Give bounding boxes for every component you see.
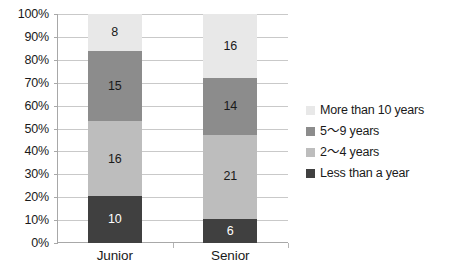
y-axis-line — [57, 14, 58, 243]
bar-segment[interactable]: 14 — [203, 78, 257, 134]
legend-swatch-icon — [306, 148, 315, 157]
bar-segment[interactable]: 21 — [203, 135, 257, 219]
bar-column[interactable]: 8151610 — [88, 14, 142, 243]
y-axis-tick-label: 10% — [25, 214, 49, 227]
y-axis-tick-label: 20% — [25, 191, 49, 204]
legend-item-label: More than 10 years — [320, 104, 424, 117]
y-axis-tick-label: 70% — [25, 76, 49, 89]
bar-segment[interactable]: 16 — [203, 14, 257, 78]
bar-segment-label: 16 — [108, 153, 122, 166]
legend: More than 10 years5～9 years2～4 yearsLess… — [306, 100, 446, 184]
legend-item[interactable]: More than 10 years — [306, 100, 446, 121]
y-axis-tick-label: 50% — [25, 122, 49, 135]
x-axis-category-label: Senior — [180, 249, 280, 263]
bar-segment[interactable]: 6 — [203, 219, 257, 243]
legend-item[interactable]: 5～9 years — [306, 121, 446, 142]
bar-segment[interactable]: 15 — [88, 51, 142, 121]
y-axis-tick-label: 40% — [25, 145, 49, 158]
bar-segment-label: 6 — [227, 225, 234, 238]
legend-swatch-icon — [306, 169, 315, 178]
bar-segment[interactable]: 10 — [88, 196, 142, 243]
legend-item[interactable]: Less than a year — [306, 163, 446, 184]
stacked-bar-chart: 100%90%80%70%60%50%40%30%20%10%0% 815161… — [0, 0, 452, 273]
legend-item-label: 2～4 years — [320, 146, 379, 159]
x-axis-tick-mark — [288, 243, 289, 248]
x-axis-category-label: Junior — [65, 249, 165, 263]
bar-segment[interactable]: 8 — [88, 14, 142, 51]
legend-item[interactable]: 2～4 years — [306, 142, 446, 163]
legend-swatch-icon — [306, 106, 315, 115]
y-axis-tick-label: 60% — [25, 99, 49, 112]
bar-segment-label: 15 — [108, 80, 122, 93]
y-axis: 100%90%80%70%60%50%40%30%20%10%0% — [0, 0, 54, 273]
y-axis-tick-mark — [54, 243, 58, 244]
bar-segment-label: 14 — [223, 100, 237, 113]
plot-area: 81516101614216 — [57, 14, 288, 243]
bar-segment-label: 16 — [223, 40, 237, 53]
bar-segment-label: 21 — [223, 170, 237, 183]
y-axis-tick-label: 90% — [25, 31, 49, 44]
bar-column[interactable]: 1614216 — [203, 14, 257, 243]
y-axis-tick-label: 0% — [31, 237, 49, 250]
legend-swatch-icon — [306, 127, 315, 136]
bar-segment[interactable]: 16 — [88, 121, 142, 196]
x-axis-tick-mark — [173, 243, 174, 248]
bar-segment-label: 10 — [108, 213, 122, 226]
legend-item-label: Less than a year — [320, 167, 409, 180]
y-axis-tick-label: 80% — [25, 54, 49, 67]
legend-item-label: 5～9 years — [320, 125, 379, 138]
bar-segment-label: 8 — [111, 26, 118, 39]
y-axis-tick-label: 30% — [25, 168, 49, 181]
y-axis-tick-label: 100% — [18, 8, 49, 21]
